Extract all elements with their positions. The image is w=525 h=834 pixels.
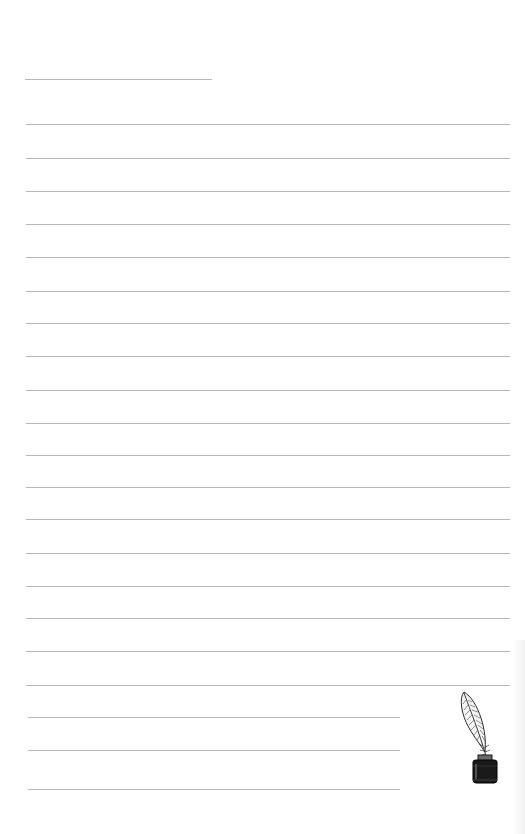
writing-line bbox=[26, 291, 510, 292]
writing-line bbox=[26, 224, 510, 225]
writing-line bbox=[26, 191, 510, 192]
writing-line bbox=[26, 685, 510, 686]
lined-paper-page bbox=[0, 0, 525, 834]
writing-line bbox=[26, 158, 510, 159]
writing-line bbox=[26, 423, 510, 424]
writing-line bbox=[26, 651, 510, 652]
short-writing-line bbox=[28, 789, 400, 790]
writing-line bbox=[26, 553, 510, 554]
writing-line bbox=[26, 257, 510, 258]
writing-line bbox=[26, 323, 510, 324]
writing-line bbox=[26, 356, 510, 357]
short-writing-line bbox=[28, 750, 400, 751]
writing-line bbox=[26, 519, 510, 520]
writing-line bbox=[26, 618, 510, 619]
writing-line bbox=[26, 455, 510, 456]
quill-and-inkwell-icon bbox=[455, 688, 503, 788]
short-writing-line bbox=[28, 717, 400, 718]
writing-line bbox=[26, 586, 510, 587]
page-edge-shadow bbox=[513, 640, 525, 834]
writing-line bbox=[26, 124, 510, 125]
header-line bbox=[25, 79, 212, 80]
writing-line bbox=[26, 487, 510, 488]
writing-line bbox=[26, 390, 510, 391]
